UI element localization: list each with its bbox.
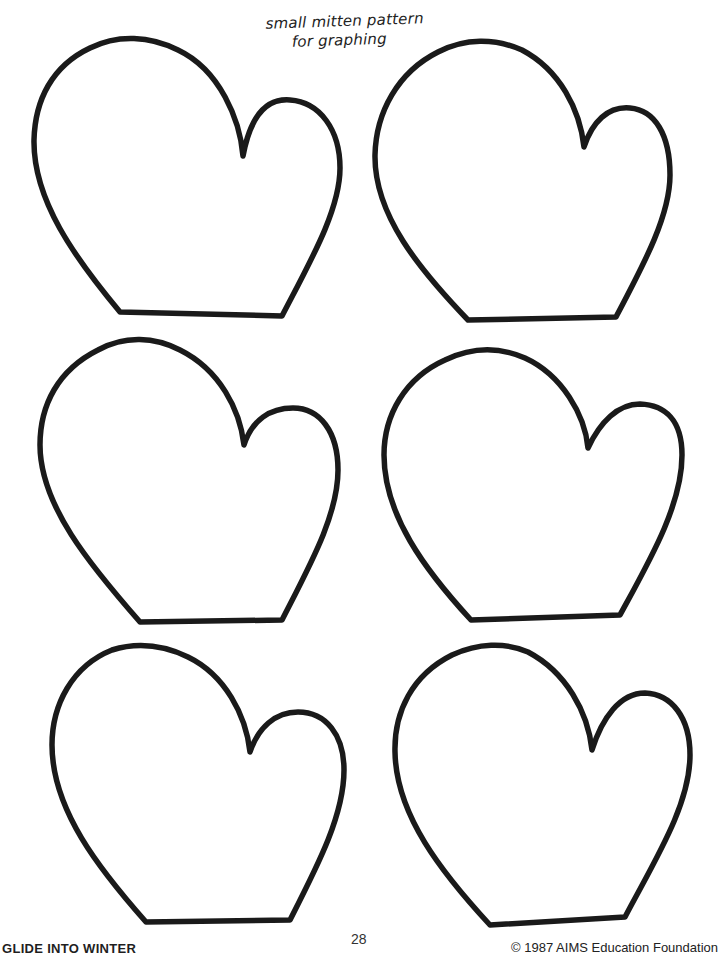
page-number: 28 [351,931,367,947]
mitten-outline-4 [384,350,682,620]
copyright-notice: © 1987 AIMS Education Foundation [511,940,718,955]
mitten-outline-2 [375,41,670,320]
mitten-outline-6 [395,645,690,925]
mitten-outline-3 [40,339,338,622]
book-title: GLIDE INTO WINTER [2,941,136,956]
mitten-outline-1 [34,38,340,316]
mitten-outline-5 [52,646,344,922]
mitten-pattern-grid [0,0,720,961]
